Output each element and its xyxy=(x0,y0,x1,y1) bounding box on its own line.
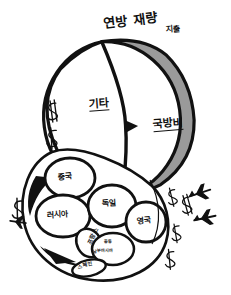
bubble-label-germany: 독일 xyxy=(102,200,117,209)
bubble-label-russia: 러시아 xyxy=(47,210,68,219)
bubble-label-mideast-line1: 중동 xyxy=(104,240,112,245)
bubble-label-china: 중국 xyxy=(58,172,73,181)
pie-label-other: 기타 xyxy=(89,97,110,111)
chart-canvas: 연방 재량 지출 기타 국방비 중국 러시아 독일 영국 프랑스 중동 남부아시… xyxy=(0,0,231,295)
chart-subtitle: 지출 xyxy=(166,26,181,35)
pie-chart-drawing xyxy=(0,0,231,295)
pie-label-defense: 국방비 xyxy=(152,117,183,133)
bubble-label-uk: 영국 xyxy=(137,216,152,225)
bubble-label-mideast-line2: 남부아시아 xyxy=(93,248,113,254)
